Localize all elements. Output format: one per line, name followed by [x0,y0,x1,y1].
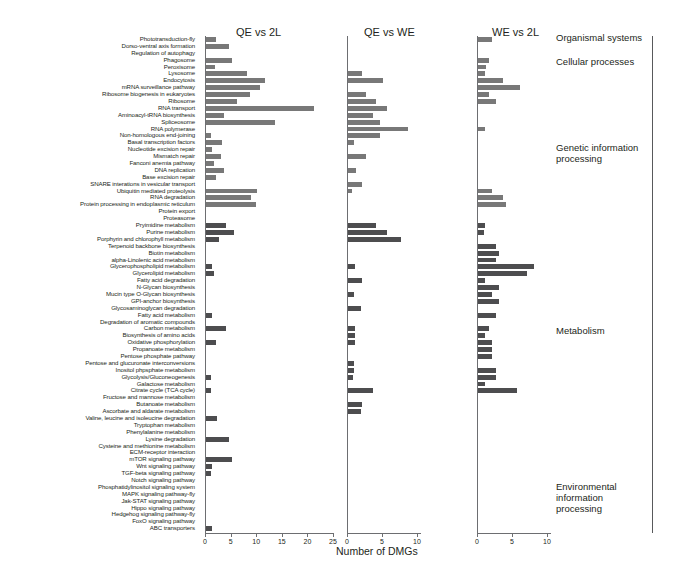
bar [206,340,216,345]
bar [206,154,221,159]
bar [206,526,212,531]
bar-track [478,339,566,346]
bar-track [478,139,566,146]
axis-tick [477,534,478,537]
bar [348,375,353,380]
bar-track [348,346,436,353]
bar-track [348,408,436,415]
bar [478,99,496,104]
bar-track [348,263,436,270]
bar-track [478,367,566,374]
bar-track [348,70,436,77]
bar [206,202,256,207]
bar [478,202,506,207]
bar [478,85,520,90]
bar-track [348,277,436,284]
bar-track [206,456,334,463]
bar-track [478,401,566,408]
bar-track [348,374,436,381]
bar-track [348,339,436,346]
bar [478,382,485,387]
bar [206,58,232,63]
bar [478,127,485,132]
bar [206,457,232,462]
bar-track [478,70,566,77]
bar-track [478,222,566,229]
bar-track [348,119,436,126]
bar-track [348,525,436,532]
bar-track [348,387,436,394]
bar-track [206,436,334,443]
bar-track [478,250,566,257]
bar-track [478,57,566,64]
bar [478,333,485,338]
bar-track [206,353,334,360]
bar-track [206,374,334,381]
bar-track [348,381,436,388]
bar [478,92,489,97]
bar-track [206,194,334,201]
bar-track [348,298,436,305]
bar-track [478,126,566,133]
axis-tick-label: 15 [272,538,292,545]
bar-track [206,50,334,57]
bar-track [478,422,566,429]
bar [206,147,212,152]
bar [206,113,224,118]
bar-track [206,319,334,326]
bar-track [478,443,566,450]
bar-track [348,250,436,257]
bar-track [478,153,566,160]
bar-track [348,394,436,401]
bar-track [478,64,566,71]
x-axis-panel-2 [347,533,421,534]
bar [206,65,215,70]
bar-track [478,132,566,139]
bar [206,223,226,228]
bar-track [348,84,436,91]
bar-track [206,505,334,512]
bar [348,333,355,338]
bar-track [206,463,334,470]
axis-tick-label: 5 [221,538,241,545]
bar-track [206,70,334,77]
bar [478,326,489,331]
bar-track [206,498,334,505]
bar-track [348,139,436,146]
bar [348,278,362,283]
bar-track [206,284,334,291]
bar-track [348,181,436,188]
axis-zero-line-panel-3 [477,36,478,533]
bar [348,99,376,104]
bar-track [206,250,334,257]
bar-track [206,518,334,525]
bar [348,264,355,269]
bar-track [478,50,566,57]
bar-track [206,339,334,346]
bar-track [206,84,334,91]
bar-track [478,319,566,326]
pathway-label-column: Phototransduction-flyDorso-ventral axis … [0,36,198,532]
bar [478,58,489,63]
bar-track [478,243,566,250]
bar-track [206,215,334,222]
axis-tick [205,534,206,537]
bar [478,223,485,228]
bar-track [206,332,334,339]
bar-track [348,112,436,119]
bar-track [348,126,436,133]
bar-track [478,229,566,236]
bar-track [478,188,566,195]
bar-track [478,43,566,50]
bar-track [206,312,334,319]
bar-track [478,181,566,188]
bar [478,37,492,42]
bar-track [348,284,436,291]
bar-track [478,284,566,291]
bar [348,120,380,125]
bar-track [478,36,566,43]
bar [206,326,226,331]
bar-track [348,77,436,84]
bar-track [348,208,436,215]
bar-track [206,415,334,422]
